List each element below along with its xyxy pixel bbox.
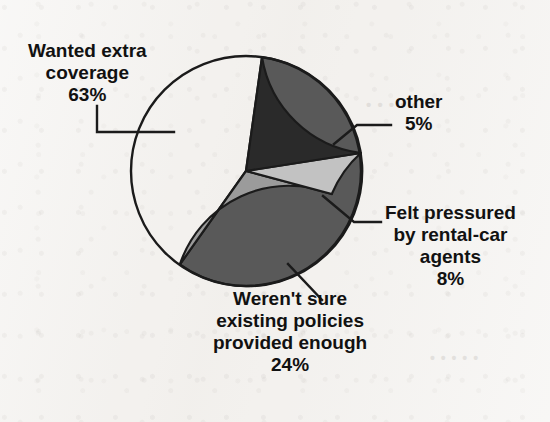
pie-label-line: coverage <box>28 62 147 84</box>
pie-label-line: agents <box>385 246 516 268</box>
pie-label-felt-pressured: Felt pressured by rental-car agents 8% <box>385 202 516 290</box>
pie-label-value: 63% <box>28 84 147 106</box>
pie-label-value: 5% <box>395 113 443 135</box>
pie-label-line: existing policies <box>213 310 367 332</box>
pie-label-wanted-extra-coverage: Wanted extra coverage 63% <box>28 40 147 106</box>
pie-label-other: other 5% <box>395 91 443 135</box>
pie-label-value: 8% <box>385 268 516 290</box>
pie-chart-figure: • • • • • • • • • • • • • • Wanted extra… <box>0 0 550 422</box>
leader-line-wanted-extra-coverage <box>97 106 174 132</box>
pie-label-line: Weren't sure <box>213 288 367 310</box>
pie-label-line: by rental-car <box>385 224 516 246</box>
pie-label-werent-sure: Weren't sure existing policies provided … <box>213 288 367 376</box>
pie-label-line: Wanted extra <box>28 40 147 62</box>
pie-label-line: other <box>395 91 443 113</box>
pie-label-line: provided enough <box>213 332 367 354</box>
pie-label-value: 24% <box>213 354 367 376</box>
pie-label-line: Felt pressured <box>385 202 516 224</box>
